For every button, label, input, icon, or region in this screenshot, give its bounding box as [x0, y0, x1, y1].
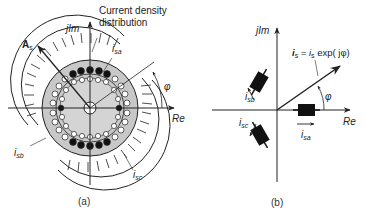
equation-leader — [315, 60, 318, 76]
i-sb-label-a: isb — [14, 147, 24, 159]
equation-label: is = is exp( jφ) — [292, 47, 350, 59]
panel-b: jIm Re is = is exp( jφ) φ isa isb isc (b… — [212, 25, 356, 208]
real-axis-label-b: Re — [343, 116, 356, 127]
caption-b: (b) — [271, 197, 283, 208]
i-s-vector — [277, 66, 340, 110]
coil-c — [247, 119, 272, 151]
phi-label-a: φ — [164, 81, 171, 92]
coil-a — [293, 104, 320, 124]
phi-arc-a — [153, 72, 162, 108]
space-vector-diagram: jIm Re Current density distribution As φ… — [0, 0, 365, 214]
i-sa-label-a: isa — [112, 43, 122, 55]
i-sc-label-a: isc — [133, 169, 143, 181]
real-axis-label-a: Re — [172, 113, 185, 124]
caption-a: (a) — [78, 196, 90, 207]
panel-a: jIm Re Current density distribution As φ… — [8, 5, 185, 207]
a-s-label: As — [22, 39, 33, 51]
phi-label-b: φ — [325, 91, 332, 102]
i-sa-label-b: isa — [301, 129, 311, 141]
i-sc-label-b: isc — [239, 117, 249, 129]
imag-axis-label-b: jIm — [254, 25, 269, 36]
phi-arc-b — [318, 86, 324, 110]
imag-axis-label-a: jIm — [64, 23, 79, 34]
annotation-line1: Current density — [99, 5, 167, 16]
annotation-line2: distribution — [99, 17, 147, 28]
